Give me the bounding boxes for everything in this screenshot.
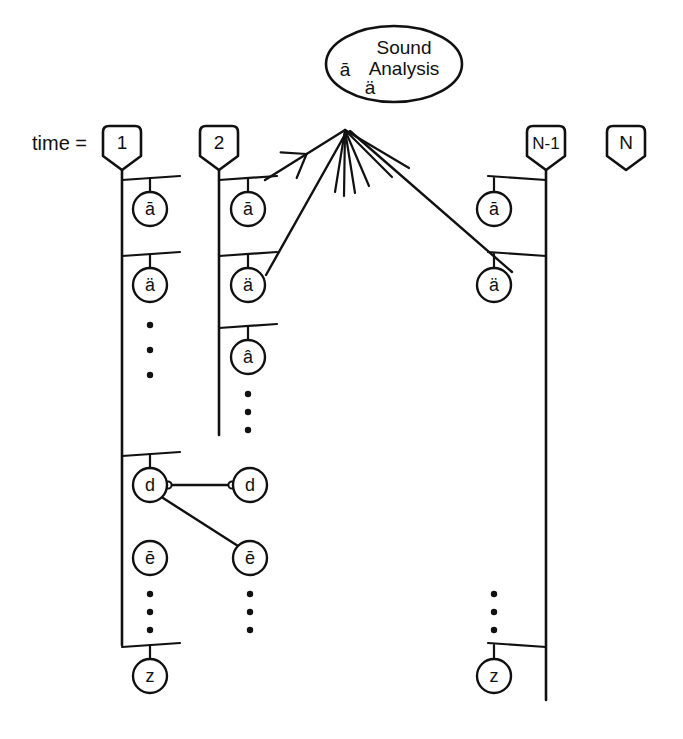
columns-layer: āädēzāäâdēāäz [122, 170, 546, 700]
time-label: time = [32, 132, 87, 154]
column-1-vdots-lower-dot-3 [147, 627, 153, 633]
analysis-sheaf-ray-2 [344, 130, 345, 196]
column-n-1-node-a-macron-label: ā [489, 199, 500, 219]
sound-analysis-layer: SoundAnalysisāä [326, 26, 462, 102]
column-1-node-z-label: z [146, 666, 155, 686]
sound-analysis-symbol-a-diaeresis: ä [365, 77, 376, 98]
column-2-vdots-upper-dot-1 [245, 391, 251, 397]
column-2-vdots-upper-dot-2 [245, 409, 251, 415]
column-n-1-node-z-label: z [490, 666, 499, 686]
column-1-node-e-macron-label: ē [145, 548, 155, 568]
column-1-vdots-lower-dot-2 [147, 609, 153, 615]
arrow-from-column2-a-macron-head-left [281, 152, 307, 154]
sound-analysis-symbol-a-macron: ā [340, 59, 351, 80]
time-label-layer: time = [32, 132, 87, 154]
time-expanded-lattice-diagram: āädēzāäâdēāäz 12N-1N SoundAnaly… [0, 0, 683, 739]
column-n-1-node-z-branch [488, 643, 546, 647]
link-d-to-e-macron [163, 498, 238, 546]
diagram-canvas: āädēzāäâdēāäz 12N-1N SoundAnaly… [0, 0, 683, 739]
time-step-label-n-1: N-1 [532, 134, 559, 153]
time-step-label-n: N [619, 132, 633, 153]
column-n-1-node-a-diaeresis-branch [488, 252, 546, 256]
column-1-vdots-upper-dot-2 [147, 347, 153, 353]
column-n-1-vdots-lower-dot-2 [491, 609, 497, 615]
column-2-node-e-macron-label: ē [245, 548, 255, 568]
column-n-1-vdots-lower-dot-1 [491, 591, 497, 597]
arrow-from-column2-a-diaeresis [266, 131, 347, 275]
column-2-vdots-lower-dot-1 [247, 591, 253, 597]
time-step-label-1: 1 [117, 132, 128, 153]
column-2-node-a-circumflex-label: â [243, 347, 254, 367]
time-step-label-2: 2 [214, 132, 225, 153]
column-2-vdots-lower-dot-3 [247, 627, 253, 633]
sound-analysis-line-2: Analysis [369, 58, 440, 79]
column-1-node-a-diaeresis-label: ä [145, 275, 156, 295]
column-2-node-d-label: d [245, 475, 255, 495]
links-layer [163, 130, 512, 546]
sound-analysis-line-1: Sound [377, 37, 432, 58]
column-1-vdots-upper-dot-3 [147, 372, 153, 378]
column-1-node-d-label: d [145, 475, 155, 495]
column-2-node-a-macron-label: ā [243, 199, 254, 219]
column-n-1-vdots-lower-dot-3 [491, 627, 497, 633]
column-2-vdots-lower-dot-2 [247, 609, 253, 615]
column-1-vdots-lower-dot-1 [147, 591, 153, 597]
column-2-vdots-upper-dot-3 [245, 427, 251, 433]
column-n-1-node-a-diaeresis-label: ä [489, 275, 500, 295]
column-n-1-node-a-macron-branch [488, 176, 546, 180]
column-1-node-a-macron-label: ā [145, 199, 156, 219]
column-2-node-a-diaeresis-label: ä [243, 275, 254, 295]
column-1-vdots-upper-dot-1 [147, 322, 153, 328]
